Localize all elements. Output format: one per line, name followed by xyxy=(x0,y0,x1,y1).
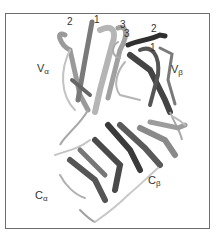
cdr-beta-2-label: 2 xyxy=(151,24,157,34)
v-alpha-domain xyxy=(60,22,126,112)
cdr-alpha-1-label: 1 xyxy=(94,15,100,25)
c-beta-label: Cβ xyxy=(148,175,161,188)
v-beta-label: Vβ xyxy=(171,64,183,77)
cdr-alpha-2-label: 2 xyxy=(67,17,73,27)
c-domains xyxy=(55,116,185,222)
cdr-beta-3-label: 3 xyxy=(124,29,130,39)
cdr-beta-1-label: 1 xyxy=(150,43,156,53)
c-alpha-label: Cα xyxy=(35,190,48,203)
protein-ribbon-diagram xyxy=(0,0,224,239)
v-alpha-label: Vα xyxy=(37,63,49,76)
